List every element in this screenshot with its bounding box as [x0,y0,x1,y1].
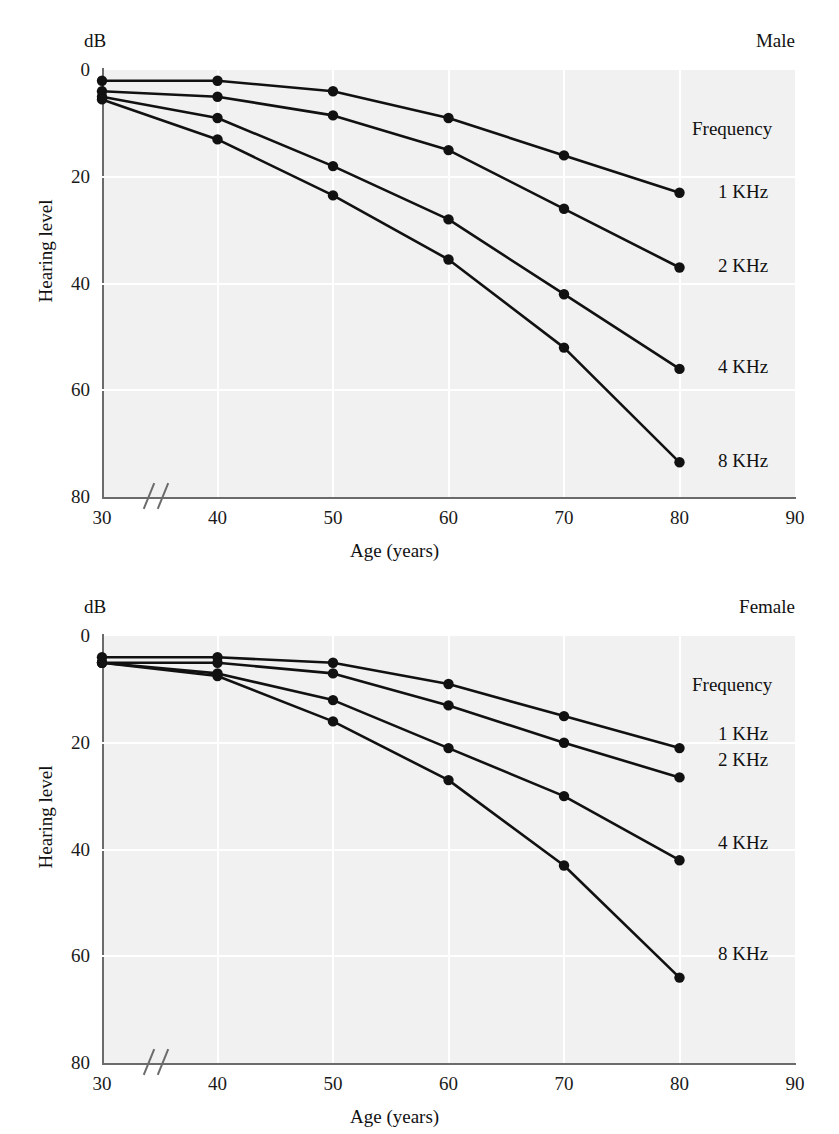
gridline-vertical [332,636,334,1063]
panel-title-female: Female [615,596,795,618]
series-label-2-khz: 2 KHz [718,749,768,771]
gridline-vertical [563,636,565,1063]
x-tick-label: 90 [765,508,825,527]
y-tick-label: 0 [44,60,90,79]
y-tick-label: 40 [44,274,90,293]
series-label-1-khz: 1 KHz [718,181,768,203]
x-axis-break-icon-female [140,1048,182,1078]
series-label-2-khz: 2 KHz [718,255,768,277]
legend-heading-female: Frequency [692,674,772,696]
chart-panel-female: dB Female Hearing level Age (years) Freq… [0,566,839,1134]
gridline-vertical [679,70,681,497]
y-tick-label: 60 [44,380,90,399]
series-label-4-khz: 4 KHz [718,356,768,378]
series-label-8-khz: 8 KHz [718,943,768,965]
y-axis-title-female: Hearing level [35,727,57,907]
y-tick-label: 0 [44,626,90,645]
x-tick-label: 30 [72,1074,132,1093]
gridline-vertical [563,70,565,497]
y-tick-label: 80 [44,487,90,506]
gridline-vertical [448,70,450,497]
x-tick-label: 50 [303,508,363,527]
y-tick-label: 20 [44,733,90,752]
x-tick-label: 60 [419,508,479,527]
series-label-1-khz: 1 KHz [718,723,768,745]
series-label-4-khz: 4 KHz [718,832,768,854]
x-tick-label: 60 [419,1074,479,1093]
x-axis-line-female [102,1063,796,1065]
y-tick-label: 60 [44,946,90,965]
x-axis-line-male [102,497,796,499]
y-tick-label: 40 [44,840,90,859]
gridline-vertical [332,70,334,497]
x-tick-label: 30 [72,508,132,527]
gridline-vertical [679,636,681,1063]
series-label-8-khz: 8 KHz [718,450,768,472]
gridline-vertical [448,636,450,1063]
panel-title-male: Male [635,30,795,52]
x-tick-label: 40 [188,1074,248,1093]
gridline-vertical [217,70,219,497]
x-axis-title-male: Age (years) [350,540,439,562]
gridline-vertical [217,636,219,1063]
x-tick-label: 90 [765,1074,825,1093]
y-axis-title-male: Hearing level [35,161,57,341]
x-axis-break-icon-male [140,482,182,512]
y-axis-unit-label-female: dB [84,596,106,618]
y-axis-unit-label-male: dB [84,30,106,52]
x-tick-label: 40 [188,508,248,527]
legend-heading-male: Frequency [692,118,772,140]
chart-panel-male: dB Male Hearing level Age (years) Freque… [0,0,839,568]
x-axis-title-female: Age (years) [350,1106,439,1128]
x-tick-label: 80 [650,1074,710,1093]
y-tick-label: 80 [44,1053,90,1072]
x-tick-label: 80 [650,508,710,527]
x-tick-label: 70 [534,508,594,527]
y-tick-label: 20 [44,167,90,186]
x-tick-label: 50 [303,1074,363,1093]
x-tick-label: 70 [534,1074,594,1093]
